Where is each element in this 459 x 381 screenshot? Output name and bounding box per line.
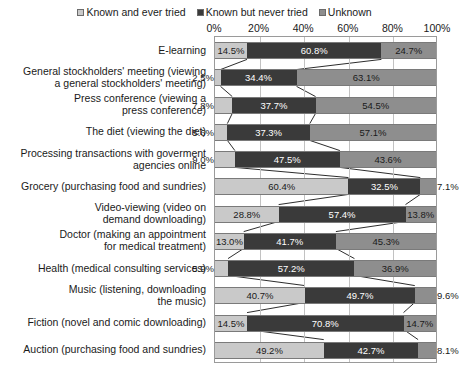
bar-segment: 49.2%: [215, 342, 324, 359]
bar-segment-label: 9.0%: [192, 151, 214, 168]
bar-segment-label: 45.3%: [372, 233, 399, 250]
bar-segment: 34.4%: [221, 69, 297, 86]
bar-segment: 49.7%: [305, 287, 415, 304]
legend-item-known-but-never-tried: Known but never tried: [197, 6, 308, 18]
bar-segment: 40.7%: [215, 287, 305, 304]
bar-segment: 37.3%: [227, 124, 309, 141]
legend-item-known-and-ever-tried: Known and ever tried: [77, 6, 185, 18]
bar-segment: 45.3%: [336, 233, 436, 250]
bar-segment-label: 47.5%: [274, 151, 301, 168]
legend-swatch-known-and-ever-tried: [77, 9, 84, 16]
bar-segment: 43.6%: [340, 151, 436, 168]
bar-segment-label: 8.1%: [437, 342, 459, 359]
bar-segment-label: 14.5%: [218, 42, 245, 59]
x-tick-label: 20%: [248, 22, 269, 35]
bar-segment: 14.5%: [215, 42, 247, 59]
bar-segment: 36.9%: [354, 260, 436, 277]
bar-segment: 13.8%: [406, 206, 436, 223]
bar-segment: 5.6%: [215, 124, 227, 141]
bar-segment: 57.2%: [228, 260, 354, 277]
bar-segment-label: 7.1%: [437, 178, 459, 195]
y-axis-category-label: Auction (purchasing food and sundries): [0, 343, 206, 355]
bar-segment: 60.4%: [215, 178, 348, 195]
bar-segment-label: 37.7%: [260, 97, 287, 114]
legend-swatch-known-but-never-tried: [197, 9, 204, 16]
bar-segment-label: 9.6%: [437, 287, 459, 304]
bar-segment-label: 5.6%: [192, 124, 214, 141]
x-tick-label: 0%: [206, 22, 221, 35]
bar-row: 28.8%57.4%13.8%: [215, 206, 436, 223]
bar-segment: 7.1%: [420, 178, 436, 195]
bar-segment-label: 41.7%: [276, 233, 303, 250]
bar-segment: 41.7%: [244, 233, 336, 250]
legend-item-unknown: Unknown: [319, 6, 372, 18]
bar-segment-label: 28.8%: [233, 206, 260, 223]
bar-segment: 54.5%: [316, 97, 436, 114]
y-axis-category-label: The diet (viewing the diet): [0, 125, 206, 137]
bar-segment-label: 70.8%: [312, 315, 339, 332]
x-tick-label: 60%: [337, 22, 358, 35]
bar-row: 14.5%60.8%24.7%: [215, 42, 436, 59]
bar-segment: 32.5%: [348, 178, 420, 195]
x-tick-label: 40%: [293, 22, 314, 35]
bar-segment-label: 40.7%: [247, 287, 274, 304]
bar-segment-label: 13.8%: [407, 206, 434, 223]
bar-segment-label: 49.2%: [256, 342, 283, 359]
x-axis-tick-labels: 0%20%40%60%80%100%: [214, 22, 437, 35]
legend-label-known-and-ever-tried: Known and ever tried: [86, 6, 185, 18]
chart-plot-area: 14.5%60.8%24.7%2.5%34.4%63.1%7.8%37.7%54…: [214, 36, 437, 363]
y-axis-category-labels: E-learningGeneral stockholders' meeting …: [0, 36, 210, 363]
bar-segment: 57.1%: [310, 124, 436, 141]
y-axis-category-label: Doctor (making an appointmentfor medical…: [0, 228, 206, 252]
bar-row: 49.2%42.7%8.1%: [215, 342, 436, 359]
chart-legend: Known and ever tried Known but never tri…: [0, 4, 449, 20]
bar-segment-label: 2.5%: [192, 69, 214, 86]
y-axis-category-label: Health (medical consulting services): [0, 262, 206, 274]
bar-segment: 8.1%: [418, 342, 436, 359]
bar-segment: 13.0%: [215, 233, 244, 250]
bar-segment-label: 14.5%: [218, 315, 245, 332]
y-axis-category-label: General stockholders' meeting (viewinga …: [0, 65, 206, 89]
y-axis-category-label: Grocery (purchasing food and sundries): [0, 180, 206, 192]
x-tick-label: 80%: [382, 22, 403, 35]
bar-segment-label: 54.5%: [362, 97, 389, 114]
bar-segment: 7.8%: [215, 97, 232, 114]
bar-segment-label: 60.8%: [301, 42, 328, 59]
y-axis-category-label: Press conference (viewing apress confere…: [0, 92, 206, 116]
bar-segment-label: 57.4%: [329, 206, 356, 223]
bar-row: 2.5%34.4%63.1%: [215, 69, 436, 86]
bar-segment: 42.7%: [324, 342, 418, 359]
bar-row: 60.4%32.5%7.1%: [215, 178, 436, 195]
bar-segment-label: 34.4%: [245, 69, 272, 86]
bar-segment: 24.7%: [381, 42, 436, 59]
legend-label-known-but-never-tried: Known but never tried: [206, 6, 308, 18]
bar-segment-label: 60.4%: [268, 178, 295, 195]
y-axis-category-label: Processing transactions with govermentag…: [0, 147, 206, 171]
bar-segment: 63.1%: [297, 69, 436, 86]
bar-row: 5.9%57.2%36.9%: [215, 260, 436, 277]
bar-segment-label: 13.0%: [216, 233, 243, 250]
bar-segment-label: 5.9%: [192, 260, 214, 277]
legend-swatch-unknown: [319, 9, 326, 16]
bar-segment: 37.7%: [232, 97, 315, 114]
bar-segment-label: 63.1%: [353, 69, 380, 86]
y-axis-category-label: Music (listening, downloadingthe music): [0, 283, 206, 307]
bar-segment-label: 49.7%: [346, 287, 373, 304]
bar-segment: 28.8%: [215, 206, 279, 223]
bar-segment: 9.6%: [415, 287, 436, 304]
bar-segment: 47.5%: [235, 151, 340, 168]
bar-segment: 9.0%: [215, 151, 235, 168]
bar-segment-label: 24.7%: [395, 42, 422, 59]
bar-segment-label: 42.7%: [357, 342, 384, 359]
bar-row: 40.7%49.7%9.6%: [215, 287, 436, 304]
bar-segment-label: 32.5%: [371, 178, 398, 195]
bar-segment: 70.8%: [247, 315, 403, 332]
bar-row: 7.8%37.7%54.5%: [215, 97, 436, 114]
bar-segment-label: 37.3%: [255, 124, 282, 141]
bar-segment: 5.9%: [215, 260, 228, 277]
bar-segment: 14.5%: [215, 315, 247, 332]
bar-segment-label: 57.1%: [359, 124, 386, 141]
y-axis-category-label: E-learning: [0, 44, 206, 56]
bar-segment-label: 57.2%: [278, 260, 305, 277]
bar-segment: 57.4%: [279, 206, 406, 223]
